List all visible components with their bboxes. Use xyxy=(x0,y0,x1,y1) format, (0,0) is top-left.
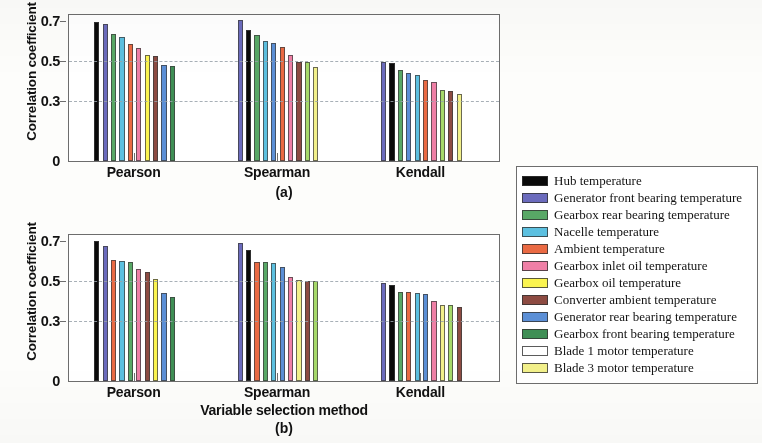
y-tick-mark xyxy=(60,21,66,22)
y-tick-label: 0.7 xyxy=(41,234,60,249)
plot-area-b xyxy=(68,234,500,382)
y-tick-label: 0.7 xyxy=(41,14,60,29)
bar xyxy=(296,62,301,161)
legend-color-swatch-icon xyxy=(522,329,548,339)
legend-color-swatch-icon xyxy=(522,312,548,322)
bar xyxy=(280,267,285,381)
bar xyxy=(406,292,411,381)
bar xyxy=(440,305,445,381)
legend-color-swatch-icon xyxy=(522,295,548,305)
bar xyxy=(288,277,293,381)
bar xyxy=(381,62,386,161)
bar xyxy=(153,279,158,381)
x-group-label-kendall: Kendall xyxy=(396,384,445,400)
gridline xyxy=(69,321,499,322)
bar xyxy=(254,35,259,161)
bar xyxy=(305,62,310,161)
bar xyxy=(246,30,251,161)
bar xyxy=(389,63,394,161)
x-axis-label: Variable selection method xyxy=(68,402,500,418)
legend-item-label: Gearbox inlet oil temperature xyxy=(554,258,707,274)
legend-item[interactable]: Gearbox oil temperature xyxy=(522,274,753,291)
bar xyxy=(111,34,116,161)
legend-item[interactable]: Blade 1 motor temperature xyxy=(522,342,753,359)
bar xyxy=(305,281,310,381)
legend: Hub temperatureGenerator front bearing t… xyxy=(516,166,758,384)
bar xyxy=(136,48,141,161)
legend-item[interactable]: Gearbox front bearing temperature xyxy=(522,325,753,342)
bar xyxy=(398,292,403,381)
legend-item-label: Nacelle temperature xyxy=(554,224,659,240)
legend-item-label: Blade 1 motor temperature xyxy=(554,343,694,359)
bar xyxy=(431,82,436,161)
x-tick-mark xyxy=(420,373,421,381)
y-tick-mark xyxy=(60,241,66,242)
legend-item[interactable]: Blade 3 motor temperature xyxy=(522,359,753,376)
legend-item-label: Generator rear bearing temperature xyxy=(554,309,737,325)
x-tick-mark xyxy=(134,153,135,161)
bar xyxy=(423,294,428,381)
bar xyxy=(389,285,394,381)
gridline xyxy=(69,281,499,282)
bar xyxy=(119,37,124,161)
legend-item[interactable]: Gearbox rear bearing temperature xyxy=(522,206,753,223)
panel-caption-a: (a) xyxy=(68,184,500,200)
legend-color-swatch-icon xyxy=(522,193,548,203)
bar xyxy=(145,55,150,161)
legend-item[interactable]: Generator front bearing temperature xyxy=(522,189,753,206)
legend-item-label: Generator front bearing temperature xyxy=(554,190,742,206)
legend-item[interactable]: Hub temperature xyxy=(522,172,753,189)
legend-item[interactable]: Generator rear bearing temperature xyxy=(522,308,753,325)
y-tick-label: 0 xyxy=(52,154,60,169)
y-tick-label: 0 xyxy=(52,374,60,389)
bar xyxy=(288,55,293,161)
bar xyxy=(381,283,386,381)
legend-item-label: Blade 3 motor temperature xyxy=(554,360,694,376)
panel-caption-b: (b) xyxy=(68,420,500,436)
bar xyxy=(246,250,251,381)
legend-item[interactable]: Gearbox inlet oil temperature xyxy=(522,257,753,274)
bar xyxy=(103,24,108,161)
bar xyxy=(398,70,403,161)
bar xyxy=(423,80,428,161)
bar-series-b xyxy=(69,235,499,381)
y-axis-ticks-a: 00.30.50.7 xyxy=(0,14,66,162)
legend-item[interactable]: Converter ambient temperature xyxy=(522,291,753,308)
legend-color-swatch-icon xyxy=(522,261,548,271)
bar xyxy=(280,47,285,161)
gridline xyxy=(69,61,499,62)
bar xyxy=(415,293,420,381)
legend-item-label: Gearbox oil temperature xyxy=(554,275,681,291)
x-tick-mark xyxy=(277,153,278,161)
legend-color-swatch-icon xyxy=(522,278,548,288)
legend-color-swatch-icon xyxy=(522,363,548,373)
bar xyxy=(238,243,243,381)
legend-item[interactable]: Nacelle temperature xyxy=(522,223,753,240)
bar xyxy=(431,301,436,381)
bar xyxy=(457,94,462,161)
y-tick-label: 0.3 xyxy=(41,314,60,329)
chart-panel-b: Correlation coefficient 00.30.50.7 Pears… xyxy=(0,222,520,422)
bar xyxy=(94,22,99,161)
legend-item[interactable]: Ambient temperature xyxy=(522,240,753,257)
bar-series-a xyxy=(69,15,499,161)
bar xyxy=(238,20,243,161)
gridline xyxy=(69,101,499,102)
x-tick-mark xyxy=(420,153,421,161)
y-tick-mark xyxy=(60,321,66,322)
bar xyxy=(170,297,175,381)
x-group-label-kendall: Kendall xyxy=(396,164,445,180)
bar xyxy=(415,75,420,161)
bar xyxy=(448,305,453,381)
y-tick-mark xyxy=(60,101,66,102)
bar xyxy=(161,65,166,161)
bar xyxy=(153,56,158,161)
chart-panel-a: Correlation coefficient 00.30.50.7 Pears… xyxy=(0,2,520,202)
figure-correlation-coefficients: Correlation coefficient 00.30.50.7 Pears… xyxy=(0,0,762,443)
y-tick-mark xyxy=(60,61,66,62)
x-group-label-pearson: Pearson xyxy=(107,384,161,400)
bar xyxy=(161,293,166,381)
bar xyxy=(145,272,150,381)
legend-color-swatch-icon xyxy=(522,227,548,237)
y-tick-label: 0.3 xyxy=(41,94,60,109)
